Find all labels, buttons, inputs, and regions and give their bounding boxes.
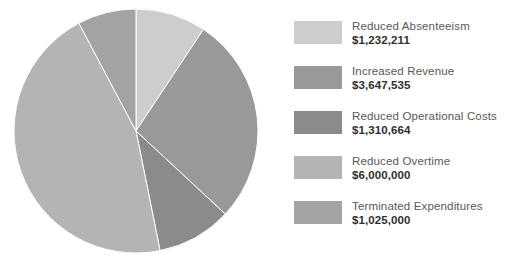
legend-item-label: Increased Revenue	[352, 65, 454, 78]
legend-item[interactable]: Terminated Expenditures $1,025,000	[294, 200, 512, 223]
legend-text-block: Increased Revenue $3,647,535	[352, 65, 454, 92]
legend-text-block: Reduced Overtime $6,000,000	[352, 155, 450, 182]
legend-text-block: Terminated Expenditures $1,025,000	[352, 200, 483, 227]
pie-slice-group	[14, 9, 258, 253]
legend-item-value: $1,025,000	[352, 213, 483, 227]
legend-swatch-icon	[294, 201, 342, 224]
legend-text-block: Reduced Absenteeism $1,232,211	[352, 20, 470, 47]
legend-item[interactable]: Reduced Absenteeism $1,232,211	[294, 20, 512, 43]
pie-chart-svg	[0, 0, 272, 256]
legend-item-label: Terminated Expenditures	[352, 200, 483, 213]
legend-item-label: Reduced Operational Costs	[352, 110, 497, 123]
legend-item-label: Reduced Absenteeism	[352, 20, 470, 33]
legend-item-value: $1,232,211	[352, 33, 470, 47]
legend-swatch-icon	[294, 111, 342, 134]
chart-legend: Reduced Absenteeism $1,232,211 Increased…	[294, 20, 512, 252]
legend-swatch-icon	[294, 156, 342, 179]
legend-swatch-icon	[294, 66, 342, 89]
pie-chart-figure: Reduced Absenteeism $1,232,211 Increased…	[0, 0, 512, 256]
legend-item[interactable]: Increased Revenue $3,647,535	[294, 65, 512, 88]
pie-chart-area	[0, 0, 272, 256]
legend-item-value: $1,310,664	[352, 123, 497, 137]
legend-text-block: Reduced Operational Costs $1,310,664	[352, 110, 497, 137]
legend-item[interactable]: Reduced Overtime $6,000,000	[294, 155, 512, 178]
legend-item-value: $6,000,000	[352, 168, 450, 182]
legend-swatch-icon	[294, 21, 342, 44]
legend-item-value: $3,647,535	[352, 78, 454, 92]
legend-item[interactable]: Reduced Operational Costs $1,310,664	[294, 110, 512, 133]
legend-item-label: Reduced Overtime	[352, 155, 450, 168]
